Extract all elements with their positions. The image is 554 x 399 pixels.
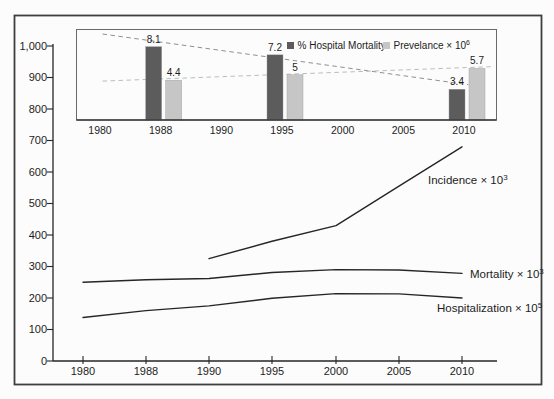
bar-value-label: 7.2 — [268, 42, 282, 53]
series-label-incidence: Incidence × 103 — [428, 173, 508, 186]
bar-hospital-mortality-2010 — [449, 89, 465, 120]
legend-label-hospital-mortality: % Hospital Mortality — [298, 40, 386, 51]
x-tick-label: 1988 — [134, 365, 158, 377]
series-label-hospitalization: Hospitalization × 105 — [437, 301, 543, 314]
y-tick-label: 600 — [29, 166, 47, 178]
inset-x-tick-label: 2010 — [452, 124, 476, 136]
inset-x-tick-label: 2000 — [331, 124, 355, 136]
series-line-incidence — [209, 147, 462, 259]
y-tick-label: 700 — [29, 134, 47, 146]
y-tick-label: 1,000 — [19, 40, 47, 52]
inset-x-tick-label: 1988 — [149, 124, 173, 136]
y-tick-label: 400 — [29, 229, 47, 241]
figure-root: 8.17.23.44.455.7198019881990199520002005… — [0, 0, 554, 399]
bar-prevalence-1988 — [166, 80, 182, 120]
legend-swatch-prevalence — [383, 42, 390, 49]
y-tick-label: 100 — [29, 323, 47, 335]
x-tick-label: 1995 — [260, 365, 284, 377]
y-tick-label: 0 — [41, 355, 47, 367]
x-tick-label: 2010 — [450, 365, 474, 377]
inset-x-tick-label: 1995 — [270, 124, 294, 136]
inset-x-tick-label: 1990 — [210, 124, 234, 136]
bar-value-label: 4.4 — [167, 67, 181, 78]
inset-bar-chart: 8.17.23.44.455.7198019881990199520002005… — [77, 30, 497, 137]
series-label-mortality: Mortality × 103 — [470, 267, 544, 280]
legend-swatch-hospital-mortality — [287, 42, 294, 49]
legend-label-prevalence: Prevelance × 106 — [394, 39, 471, 51]
bar-value-label: 3.4 — [450, 76, 464, 87]
y-tick-label: 500 — [29, 197, 47, 209]
y-tick-label: 800 — [29, 103, 47, 115]
y-tick-label: 900 — [29, 71, 47, 83]
bar-value-label: 8.1 — [147, 34, 161, 45]
bar-value-label: 5 — [292, 62, 298, 73]
bar-prevalence-2010 — [469, 68, 485, 120]
series-line-hospitalization — [83, 294, 462, 318]
bar-value-label: 5.7 — [470, 55, 484, 66]
x-tick-label: 1980 — [71, 365, 95, 377]
x-tick-label: 1990 — [197, 365, 221, 377]
x-tick-label: 2000 — [324, 365, 348, 377]
bar-hospital-mortality-1995 — [267, 55, 283, 120]
figure-canvas: 8.17.23.44.455.7198019881990199520002005… — [0, 0, 554, 399]
series-line-mortality — [83, 270, 462, 283]
y-tick-label: 300 — [29, 260, 47, 272]
y-tick-label: 200 — [29, 292, 47, 304]
inset-x-tick-label: 2005 — [392, 124, 416, 136]
inset-x-tick-label: 1980 — [88, 124, 112, 136]
bar-hospital-mortality-1988 — [146, 47, 162, 120]
bar-prevalence-1995 — [287, 75, 303, 120]
x-tick-label: 2005 — [387, 365, 411, 377]
